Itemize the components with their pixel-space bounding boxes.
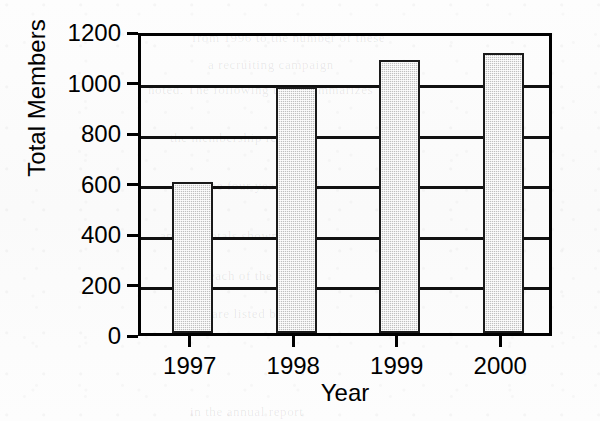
y-tick-mark <box>127 284 138 287</box>
x-axis-title: Year <box>138 379 552 407</box>
y-tick-mark <box>127 183 138 186</box>
y-tick-label: 1000 <box>3 72 121 96</box>
x-tick-mark <box>292 336 295 347</box>
x-tick-label: 2000 <box>440 354 560 378</box>
y-tick-label: 0 <box>3 324 121 348</box>
bar <box>483 53 524 333</box>
y-tick-label: 1200 <box>3 21 121 45</box>
y-tick-mark <box>127 133 138 136</box>
bar <box>276 87 317 333</box>
x-tick-label: 1998 <box>233 354 353 378</box>
y-tick-label: 800 <box>3 122 121 146</box>
x-tick-mark <box>188 336 191 347</box>
y-tick-label: 200 <box>3 274 121 298</box>
bar-chart-figure: Total Members 020040060080010001200 1997… <box>0 0 600 421</box>
bar <box>379 60 420 333</box>
bar <box>172 182 213 334</box>
y-tick-label: 600 <box>3 173 121 197</box>
y-tick-mark <box>127 82 138 85</box>
y-tick-mark <box>127 335 138 338</box>
plot-area <box>138 33 552 336</box>
y-tick-mark <box>127 234 138 237</box>
x-tick-label: 1997 <box>130 354 250 378</box>
y-tick-label: 400 <box>3 223 121 247</box>
x-tick-mark <box>499 336 502 347</box>
x-tick-label: 1999 <box>337 354 457 378</box>
x-tick-mark <box>395 336 398 347</box>
y-tick-mark <box>127 32 138 35</box>
